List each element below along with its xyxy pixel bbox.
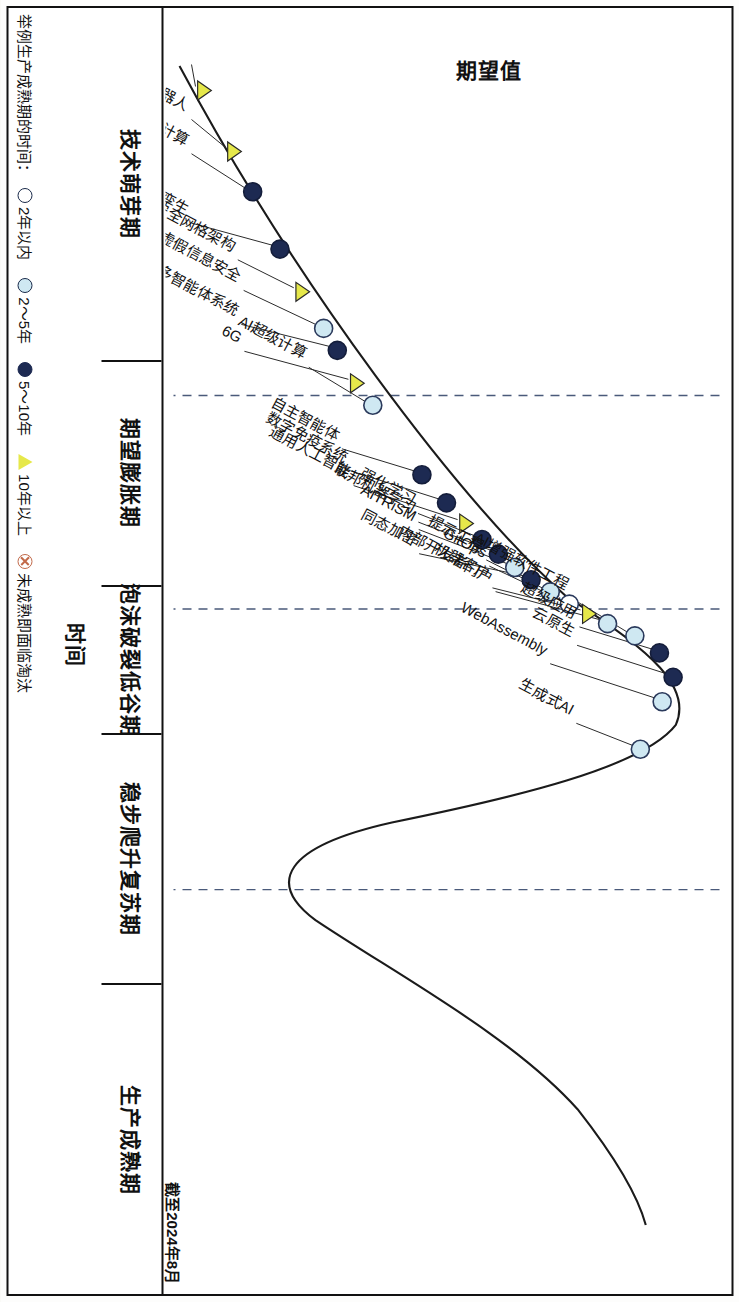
phase-label-4: 稳步爬升复苏期 xyxy=(101,735,161,986)
phase-label-text: 期望膨胀期 xyxy=(116,418,146,528)
marker-11[interactable] xyxy=(437,494,455,512)
marker-1[interactable] xyxy=(197,81,211,100)
legend-item-4: 10年以上 xyxy=(15,454,36,536)
phase-label-1: 技术萌芽期 xyxy=(101,8,161,362)
point-label: 生成式AI xyxy=(516,675,576,718)
leader-line xyxy=(550,664,654,698)
as-of-note: 截至2024年8月 xyxy=(162,1182,183,1284)
legend-item-label: 2年以内 xyxy=(15,207,36,260)
legend-item-3: 5～10年 xyxy=(15,362,36,436)
hype-cycle-curve-svg: 大行动模型人形工作机器人空间计算客户数字孪生网络安全网格架构虚假信息安全多智能体… xyxy=(165,60,725,1280)
legend-item-2: 2～5年 xyxy=(15,278,36,344)
leader-lines xyxy=(191,65,665,746)
legend-title: 举例生产成熟期的时间： xyxy=(15,14,36,179)
plot-area: 大行动模型人形工作机器人空间计算客户数字孪生网络安全网格架构虚假信息安全多智能体… xyxy=(165,60,725,1280)
legend-item-5: 未成熟即面临淘汰 xyxy=(15,554,36,693)
leader-line xyxy=(576,723,632,745)
marker-22[interactable] xyxy=(650,644,668,662)
leader-line xyxy=(191,120,225,148)
circle-lightblue-icon xyxy=(18,278,33,293)
marker-3[interactable] xyxy=(243,183,261,201)
circle-cross-icon xyxy=(18,554,33,569)
leader-line xyxy=(191,154,244,188)
chart-stage: 期望值 大行动模型人形工作机器人空间计算客户数字孪生网络安全网格架构虚假信息安全… xyxy=(0,0,739,1302)
phase-label-2: 期望膨胀期 xyxy=(101,362,161,587)
legend: 举例生产成熟期的时间： 2年以内2～5年5～10年10年以上未成熟即面临淘汰 xyxy=(12,14,38,704)
legend-item-label: 未成熟即面临淘汰 xyxy=(15,573,36,693)
x-axis-title: 时间 xyxy=(61,0,91,1290)
legend-item-label: 10年以上 xyxy=(15,474,36,536)
hype-cycle-page: 期望值 大行动模型人形工作机器人空间计算客户数字孪生网络安全网格架构虚假信息安全… xyxy=(0,0,739,1302)
circle-darkblue-icon xyxy=(18,362,33,377)
marker-25[interactable] xyxy=(631,740,649,758)
phase-label-row: 技术萌芽期期望膨胀期泡沫破裂低谷期稳步爬升复苏期生产成熟期 xyxy=(101,8,163,1294)
marker-23[interactable] xyxy=(664,668,682,686)
point-label: 人形工作机器人 xyxy=(165,60,192,114)
phase-label-text: 泡沫破裂低谷期 xyxy=(116,583,146,737)
point-label: 空间计算 xyxy=(165,105,192,148)
marker-7[interactable] xyxy=(328,341,346,359)
marker-9[interactable] xyxy=(363,396,381,414)
leader-line xyxy=(237,260,293,288)
leader-line xyxy=(191,65,195,87)
legend-item-label: 5～10年 xyxy=(15,381,36,436)
legend-item-label: 2～5年 xyxy=(15,297,36,344)
phase-label-text: 技术萌芽期 xyxy=(116,129,146,239)
marker-19[interactable] xyxy=(582,604,596,623)
marker-6[interactable] xyxy=(314,319,332,337)
phase-label-5: 生产成熟期 xyxy=(101,985,161,1294)
marker-8[interactable] xyxy=(350,374,364,393)
marker-21[interactable] xyxy=(625,627,643,645)
legend-item-1: 2年以内 xyxy=(15,188,36,260)
marker-20[interactable] xyxy=(598,615,616,633)
phase-label-text: 生产成熟期 xyxy=(116,1085,146,1195)
marker-24[interactable] xyxy=(653,693,671,711)
marker-4[interactable] xyxy=(270,240,288,258)
point-label: AI超级计算 xyxy=(235,312,308,362)
circle-white-icon xyxy=(18,188,33,203)
phase-label-3: 泡沫破裂低谷期 xyxy=(101,587,161,735)
marker-5[interactable] xyxy=(295,282,309,301)
triangle-yellow-icon xyxy=(18,454,32,470)
marker-2[interactable] xyxy=(227,142,241,161)
phase-label-text: 稳步爬升复苏期 xyxy=(116,782,146,936)
marker-10[interactable] xyxy=(412,466,430,484)
